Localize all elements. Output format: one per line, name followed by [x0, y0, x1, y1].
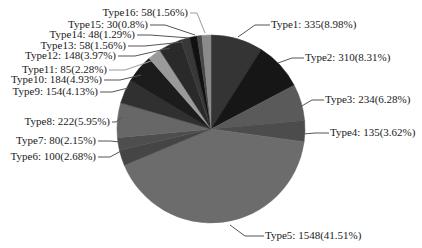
slice-label-type11: Type11: 85(2.28%) — [22, 63, 107, 76]
leader-line-type9 — [100, 88, 128, 92]
slice-label-type4: Type4: 135(3.62%) — [330, 126, 416, 139]
pie-chart-svg: Type1: 335(8.98%)Type2: 310(8.31%)Type3:… — [0, 0, 422, 248]
leader-line-type1 — [238, 25, 270, 37]
slice-label-type13: Type13: 58(1.56%) — [41, 39, 127, 52]
leader-line-type16 — [190, 13, 205, 33]
slice-label-type8: Type8: 222(5.95%) — [25, 115, 111, 128]
slice-label-type15: Type15: 30(0.8%) — [68, 18, 148, 31]
leader-line-type15 — [150, 25, 195, 35]
slice-label-type2: Type2: 310(8.31%) — [305, 51, 391, 64]
leader-line-type14 — [137, 35, 190, 38]
slice-label-type16: Type16: 58(1.56%) — [103, 6, 189, 19]
leader-line-type2 — [278, 58, 304, 63]
leader-line-type6 — [98, 151, 121, 157]
slice-label-type1: Type1: 335(8.98%) — [271, 18, 357, 31]
pie-chart: Type1: 335(8.98%)Type2: 310(8.31%)Type3:… — [0, 0, 422, 248]
slice-label-type3: Type3: 234(6.28%) — [325, 93, 411, 106]
leader-line-type4 — [303, 133, 329, 134]
leader-line-type3 — [300, 100, 324, 107]
slice-label-type9: Type9: 154(4.13%) — [13, 85, 99, 98]
slice-label-type6: Type6: 100(2.68%) — [11, 150, 97, 163]
leader-line-type7 — [98, 141, 120, 142]
slice-label-type5: Type5: 1548(41.51%) — [265, 229, 362, 242]
leader-line-type5 — [230, 225, 264, 236]
slice-label-type7: Type7: 80(2.15%) — [16, 134, 96, 147]
